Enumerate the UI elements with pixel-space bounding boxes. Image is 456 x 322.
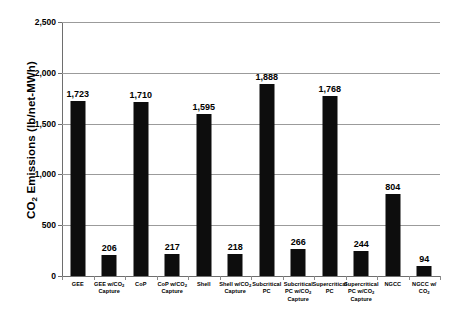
x-axis-category-line: PC w/CO2 (342, 288, 382, 295)
x-axis-category-line: Capture (153, 288, 193, 295)
bar-slot: 244 (346, 22, 378, 276)
x-axis-tick-mark (377, 276, 378, 280)
bar-slot: 1,595 (188, 22, 220, 276)
co2-emissions-bar-chart: CO2 Emissions (lb/net-MWh) 05001,0001,50… (0, 0, 456, 322)
bar[interactable] (228, 254, 243, 276)
x-axis-tick-mark (409, 276, 410, 280)
x-axis-category-label: NGCC w/CO2 (405, 281, 445, 296)
x-axis-tick-mark (157, 276, 158, 280)
x-axis-tick-mark (188, 276, 189, 280)
x-axis-category-line: Capture (90, 288, 130, 295)
bar-slot: 1,768 (314, 22, 346, 276)
bar-value-label: 1,768 (318, 84, 341, 94)
bar-slot: 218 (220, 22, 252, 276)
y-axis-title-subscript: 2 (30, 197, 39, 202)
x-axis-tick-mark (220, 276, 221, 280)
bar-slot: 94 (409, 22, 441, 276)
bar-slot: 1,723 (62, 22, 94, 276)
bar[interactable] (354, 251, 369, 276)
bar[interactable] (291, 249, 306, 276)
x-axis-tick-mark (62, 276, 63, 280)
bar[interactable] (385, 194, 400, 276)
bar-slot: 206 (94, 22, 126, 276)
bar-value-label: 266 (291, 237, 306, 247)
bar-value-label: 94 (419, 254, 429, 264)
bar-slot: 266 (283, 22, 315, 276)
x-axis-tick-mark (94, 276, 95, 280)
x-axis-tick-mark (283, 276, 284, 280)
plot-area: 1,7232061,7102171,5952181,8882661,768244… (62, 22, 440, 276)
bar[interactable] (259, 84, 274, 276)
y-axis-title: CO2 Emissions (lb/net-MWh) (22, 10, 40, 270)
y-axis-tick-label: 0 (0, 271, 56, 281)
bar-value-label: 206 (102, 243, 117, 253)
bar[interactable] (165, 254, 180, 276)
y-axis-tick-label: 500 (0, 220, 56, 230)
bar-slot: 1,888 (251, 22, 283, 276)
x-axis-category-line: NGCC w/ (405, 281, 445, 288)
bar[interactable] (322, 96, 337, 276)
bar[interactable] (133, 102, 148, 276)
y-axis-tick-label: 1,000 (0, 169, 56, 179)
subscript-2: 2 (372, 290, 374, 295)
x-axis-category-line: Capture (342, 296, 382, 303)
bar-slot: 804 (377, 22, 409, 276)
y-axis-tick-label: 2,000 (0, 68, 56, 78)
bar-value-label: 1,595 (192, 102, 215, 112)
x-axis-tick-mark (346, 276, 347, 280)
x-axis-tick-layer (62, 276, 440, 280)
subscript-2: 2 (427, 290, 429, 295)
bar-value-label: 1,723 (66, 89, 89, 99)
x-axis-tick-mark (440, 276, 441, 280)
bar-value-label: 218 (228, 242, 243, 252)
bar-value-label: 1,710 (129, 90, 152, 100)
x-axis-category-line: CO2 (405, 288, 445, 295)
x-axis-tick-mark (314, 276, 315, 280)
bar[interactable] (417, 266, 432, 276)
bar[interactable] (70, 101, 85, 276)
x-axis-label-layer: GEEGEE w/CO2CaptureCoPCoP w/CO2CaptureSh… (62, 281, 440, 321)
y-axis-tick-label: 1,500 (0, 119, 56, 129)
bar[interactable] (102, 255, 117, 276)
x-axis-tick-mark (125, 276, 126, 280)
bar[interactable] (196, 114, 211, 276)
bar-value-label: 1,888 (255, 72, 278, 82)
bar-value-label: 804 (385, 182, 400, 192)
bar-slot: 1,710 (125, 22, 157, 276)
x-axis-tick-mark (251, 276, 252, 280)
y-axis-title-prefix: CO (25, 201, 37, 218)
y-axis-tick-label: 2,500 (0, 17, 56, 27)
bar-value-label: 244 (354, 239, 369, 249)
bar-value-label: 217 (165, 242, 180, 252)
bar-slot: 217 (157, 22, 189, 276)
x-axis-category-line: Capture (279, 296, 319, 303)
